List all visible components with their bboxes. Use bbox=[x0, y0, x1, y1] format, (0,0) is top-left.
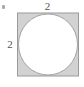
top-side-length-label: 2 bbox=[0, 1, 84, 12]
geometry-figure: 2 2 bbox=[0, 0, 84, 87]
inscribed-circle-shape bbox=[19, 14, 78, 75]
left-side-length-label: 2 bbox=[4, 39, 16, 50]
